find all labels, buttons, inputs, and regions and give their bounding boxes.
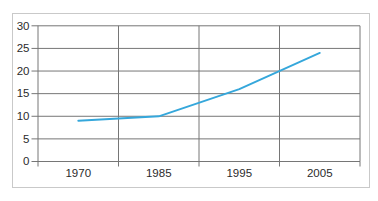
x-tick-label: 1985 bbox=[146, 167, 172, 179]
x-tick-label: 2005 bbox=[307, 167, 333, 179]
y-tick-label: 20 bbox=[17, 65, 30, 77]
y-tick-label: 10 bbox=[17, 110, 30, 122]
x-tick-label: 1970 bbox=[65, 167, 91, 179]
line-chart: 0510152025301970198519952005 bbox=[0, 0, 378, 201]
x-tick-label: 1995 bbox=[226, 167, 252, 179]
y-tick-label: 0 bbox=[23, 155, 29, 167]
y-tick-label: 30 bbox=[17, 20, 30, 32]
chart-canvas: 0510152025301970198519952005 bbox=[0, 0, 378, 201]
y-tick-label: 5 bbox=[23, 133, 29, 145]
y-tick-label: 15 bbox=[17, 87, 30, 99]
y-tick-label: 25 bbox=[17, 42, 30, 54]
